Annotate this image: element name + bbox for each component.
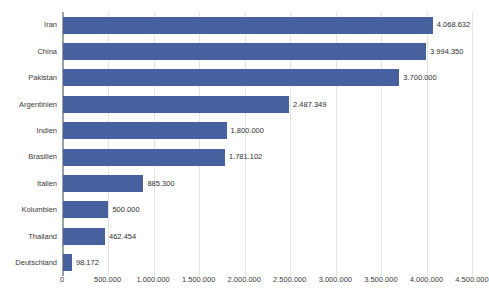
bar-value-label: 4.068.632 (437, 21, 470, 29)
bar-row: 1.800.000 (63, 122, 472, 139)
bar-rows: 4.068.6323.994.3503.700.0002.487.3491.80… (63, 12, 472, 276)
bar[interactable] (63, 43, 426, 60)
bar[interactable] (63, 149, 225, 166)
bar-row: 500.000 (63, 201, 472, 218)
bar-value-label: 885.300 (147, 180, 174, 188)
category-label: Kolumbien (0, 201, 57, 218)
bar-row: 98.172 (63, 254, 472, 271)
category-label: Deutschland (0, 254, 57, 271)
x-tick-label: 2.000.000 (228, 276, 261, 284)
bar-value-label: 98.172 (76, 259, 99, 267)
bar-row: 3.700.000 (63, 69, 472, 86)
x-tick-label: 500.000 (94, 276, 121, 284)
category-label: Iran (0, 17, 57, 34)
x-tick-label: 3.500.000 (364, 276, 397, 284)
x-tick-label: 4.500.000 (455, 276, 488, 284)
bar-row: 885.300 (63, 175, 472, 192)
bar-value-label: 2.487.349 (293, 101, 326, 109)
x-tick-label: 3.000.000 (319, 276, 352, 284)
bar[interactable] (63, 17, 433, 34)
category-label: Indien (0, 122, 57, 139)
x-tick-label: 1.500.000 (182, 276, 215, 284)
category-label: Thailand (0, 228, 57, 245)
bar[interactable] (63, 201, 108, 218)
category-label: Pakistan (0, 69, 57, 86)
bar[interactable] (63, 254, 72, 271)
value-axis: 0500.0001.000.0001.500.0002.000.0002.500… (62, 276, 472, 292)
bar[interactable] (63, 122, 227, 139)
x-tick-label: 2.500.000 (273, 276, 306, 284)
category-label: Italien (0, 175, 57, 192)
category-axis: IranChinaPakistanArgentinienIndienBrasil… (0, 12, 57, 276)
bar[interactable] (63, 96, 289, 113)
bar-value-label: 500.000 (112, 206, 139, 214)
bar[interactable] (63, 228, 105, 245)
bar-row: 4.068.632 (63, 17, 472, 34)
x-tick-label: 1.000.000 (136, 276, 169, 284)
bar[interactable] (63, 175, 143, 192)
category-label: Brasilien (0, 149, 57, 166)
bar-value-label: 3.700.000 (403, 74, 436, 82)
bar-value-label: 1.781.102 (229, 153, 262, 161)
bar-row: 1.781.102 (63, 149, 472, 166)
category-label: China (0, 43, 57, 60)
x-tick-label: 0 (60, 276, 64, 284)
bar-row: 3.994.350 (63, 43, 472, 60)
bar-value-label: 3.994.350 (430, 48, 463, 56)
bar[interactable] (63, 69, 399, 86)
bar-row: 462.454 (63, 228, 472, 245)
category-label: Argentinien (0, 96, 57, 113)
x-tick-label: 4.000.000 (410, 276, 443, 284)
gridline-9 (472, 12, 473, 276)
bar-value-label: 462.454 (109, 233, 136, 241)
bar-value-label: 1.800.000 (231, 127, 264, 135)
bar-row: 2.487.349 (63, 96, 472, 113)
plot-area: 4.068.6323.994.3503.700.0002.487.3491.80… (62, 12, 472, 276)
